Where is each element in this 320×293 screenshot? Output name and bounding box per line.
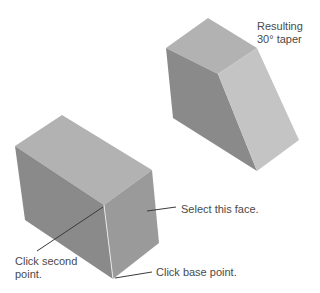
select-face-label: Select this face. <box>181 203 259 216</box>
result-label-line2: 30° taper <box>257 33 303 46</box>
base-point-label: Click base point. <box>156 266 237 279</box>
second-point-label-line1: Click second <box>15 255 77 268</box>
taper-faces-figure: Resulting 30° taper Select this face. Cl… <box>0 0 320 293</box>
second-point-label-line2: point. <box>15 268 77 281</box>
result-label-line1: Resulting <box>257 20 303 33</box>
result-label: Resulting 30° taper <box>257 20 303 46</box>
second-point-label: Click second point. <box>15 255 77 281</box>
